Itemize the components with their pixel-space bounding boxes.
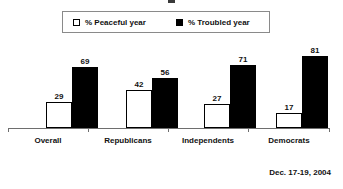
bar-value-republicans-peaceful: 42 [126, 80, 152, 89]
legend-item-peaceful-year: % Peaceful year [73, 18, 146, 27]
bar-democrats-troubled [302, 56, 328, 128]
legend-label-peaceful-year: % Peaceful year [85, 18, 146, 27]
bar-value-independents-troubled: 71 [230, 55, 256, 64]
bar-value-democrats-peaceful: 17 [276, 103, 302, 112]
cropped-title-fragment [168, 0, 175, 3]
x-axis-tick-end [329, 128, 330, 132]
survey-date-footnote: Dec. 17-19, 2004 [269, 168, 331, 177]
bar-overall-peaceful [46, 102, 72, 128]
bar-group-republicans: 42 56 [126, 40, 184, 128]
bar-chart: % Peaceful year % Troubled year 29 69 42 [0, 0, 343, 189]
bar-value-overall-peaceful: 29 [46, 92, 72, 101]
x-axis-tick-2 [168, 128, 169, 132]
x-axis-label-republicans: Republicans [88, 136, 168, 145]
x-axis-tick-start [8, 128, 9, 132]
bar-value-democrats-troubled: 81 [302, 46, 328, 55]
x-axis-label-independents: Independents [166, 136, 250, 145]
bar-independents-troubled [230, 65, 256, 128]
x-axis-line [8, 128, 330, 129]
chart-legend: % Peaceful year % Troubled year [62, 11, 270, 33]
x-axis-tick-1 [88, 128, 89, 132]
bar-democrats-peaceful [276, 113, 302, 128]
bar-value-overall-troubled: 69 [72, 57, 98, 66]
filled-square-marker-icon [176, 19, 183, 26]
bar-group-democrats: 17 81 [276, 40, 334, 128]
plot-area: 29 69 42 56 27 [8, 40, 330, 128]
x-axis-label-overall: Overall [8, 136, 88, 145]
x-axis-label-democrats: Democrats [248, 136, 330, 145]
bar-value-independents-peaceful: 27 [204, 94, 230, 103]
legend-item-troubled-year: % Troubled year [176, 18, 250, 27]
bar-republicans-troubled [152, 78, 178, 128]
bar-value-republicans-troubled: 56 [152, 68, 178, 77]
bar-overall-troubled [72, 67, 98, 128]
legend-label-troubled-year: % Troubled year [188, 18, 250, 27]
x-axis-tick-3 [248, 128, 249, 132]
bar-group-independents: 27 71 [204, 40, 262, 128]
bar-group-overall: 29 69 [46, 40, 104, 128]
bar-independents-peaceful [204, 104, 230, 128]
open-square-marker-icon [73, 19, 80, 26]
bar-republicans-peaceful [126, 90, 152, 128]
